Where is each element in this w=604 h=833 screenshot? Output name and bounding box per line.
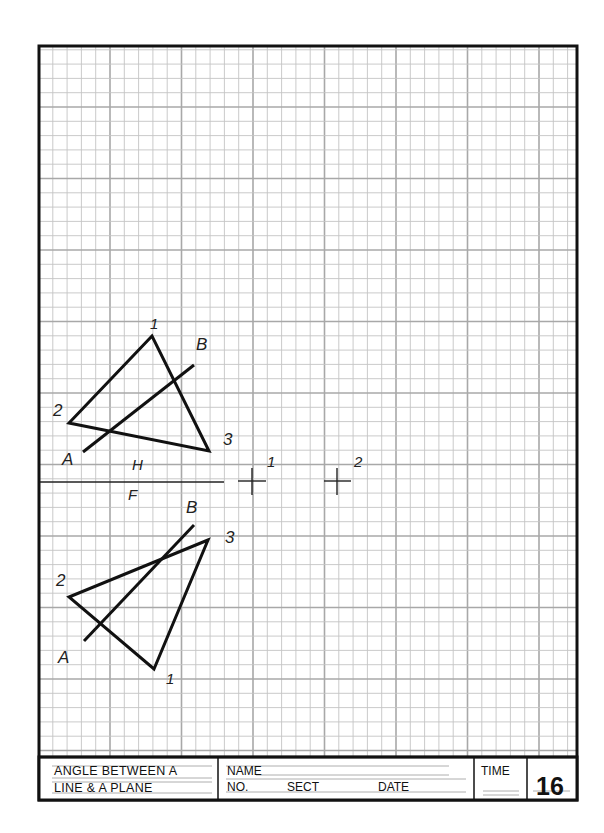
point-2-cross xyxy=(324,468,351,495)
fold-label-h: H xyxy=(132,456,143,473)
front-vertex-1-label: 1 xyxy=(166,670,174,687)
drawing-title-line-1: ANGLE BETWEEN A xyxy=(54,764,178,778)
top-line-b-label: B xyxy=(196,335,207,354)
top-view: 1 2 3 A B xyxy=(52,315,233,469)
title-block: ANGLE BETWEEN A LINE & A PLANE NAME NO. … xyxy=(39,757,577,800)
sheet-number: 16 xyxy=(536,772,564,800)
top-line-a-label: A xyxy=(61,450,73,469)
graph-paper-grid xyxy=(39,46,577,757)
name-field-label: NAME xyxy=(227,764,262,778)
drawing-sheet: H F 1 2 1 2 3 A B 1 2 3 A B xyxy=(0,0,604,833)
number-field-label: NO. xyxy=(227,780,248,794)
time-field-label: TIME xyxy=(481,764,510,778)
front-vertex-2-label: 2 xyxy=(55,571,66,590)
point-2-label: 2 xyxy=(353,453,363,470)
fold-label-f: F xyxy=(128,486,138,503)
drawing-title-line-2: LINE & A PLANE xyxy=(54,781,153,795)
front-vertex-3-label: 3 xyxy=(225,528,235,547)
top-vertex-3-label: 3 xyxy=(223,430,233,449)
front-view: 1 2 3 A B xyxy=(55,498,235,687)
top-vertex-2-label: 2 xyxy=(52,401,63,420)
front-line-a-label: A xyxy=(57,648,69,667)
point-1-label: 1 xyxy=(267,453,275,470)
date-field-label: DATE xyxy=(378,780,409,794)
point-1-cross xyxy=(238,468,266,495)
top-vertex-1-label: 1 xyxy=(150,315,158,332)
section-field-label: SECT xyxy=(287,780,320,794)
front-line-b-label: B xyxy=(186,498,197,517)
